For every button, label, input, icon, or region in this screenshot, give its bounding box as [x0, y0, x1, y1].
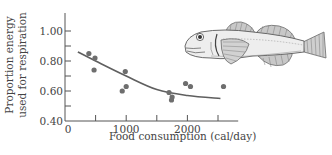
data-point: [221, 84, 226, 89]
y-axis-label: Proportion energy used for respiration: [3, 10, 28, 120]
y-tick-label: 1.00: [40, 25, 63, 37]
y-tick-label: 0.80: [40, 55, 63, 67]
fish-illustration-icon: [185, 22, 326, 67]
y-axis-label-line-1: Proportion energy: [3, 10, 16, 120]
y-axis-label-line-2: used for respiration: [16, 10, 29, 120]
data-point: [86, 51, 91, 56]
data-point: [188, 84, 193, 89]
chart-figure: 0.400.600.801.00010002000: [0, 0, 332, 155]
data-point: [169, 97, 174, 102]
x-tick-label: 0: [65, 123, 72, 135]
data-point: [92, 55, 97, 60]
data-point: [123, 69, 128, 74]
data-point: [120, 88, 125, 93]
data-points: [86, 51, 226, 103]
data-point: [183, 81, 188, 86]
y-tick-label: 0.60: [40, 85, 63, 97]
data-point: [124, 84, 129, 89]
fitted-curve: [78, 52, 221, 99]
data-point: [166, 90, 171, 95]
y-tick-label: 0.40: [40, 115, 63, 127]
x-axis-label: Food consumption (cal/day): [109, 130, 256, 142]
data-point: [91, 67, 96, 72]
